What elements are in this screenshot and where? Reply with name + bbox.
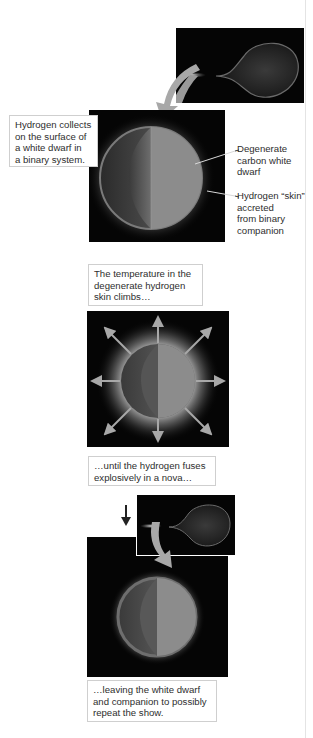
sequence-down-arrow-icon [120,505,132,527]
callout-line: companion [237,225,305,237]
step2-label-box: The temperature in the degenerate hydrog… [88,264,203,306]
accretion-flow-arrow-icon [140,522,176,572]
white-dwarf-heating-panel [87,311,229,447]
callout-hydrogen-skin: Hydrogen “skin” accreted from binary com… [237,190,305,236]
step1-label-line: a white dwarf in [15,142,92,154]
step1-label-box: Hydrogen collects on the surface of a wh… [9,115,98,167]
page-edge-divider [305,0,306,738]
step3-label-line: explosively in a nova… [94,472,210,484]
step1-label-line: Hydrogen collects [15,119,92,131]
callout-line: from binary [237,213,305,225]
step3-label-line: …until the hydrogen fuses [94,460,210,472]
callout-leader-lines [195,145,240,200]
step1-label-line: on the surface of [15,131,92,143]
step4-label-line: and companion to possibly [93,696,211,708]
step2-label-line: The temperature in the [94,268,197,280]
step4-label-line: …leaving the white dwarf [93,684,211,696]
step4-label-box: …leaving the white dwarf and companion t… [87,680,217,722]
step1-label-line: a binary system. [15,154,92,166]
step3-label-box: …until the hydrogen fuses explosively in… [88,456,216,486]
callout-degenerate-carbon-white-dwarf: Degenerate carbon white dwarf [237,143,291,178]
white-dwarf-heating-icon [87,311,229,447]
step4-label-line: repeat the show. [93,707,211,719]
callout-line: carbon white [237,155,291,167]
callout-line: accreted [237,202,305,214]
callout-line: Degenerate [237,143,291,155]
callout-line: Hydrogen “skin” [237,190,305,202]
step2-label-line: skin climbs… [94,291,197,303]
step2-label-line: degenerate hydrogen [94,280,197,292]
callout-line: dwarf [237,166,291,178]
